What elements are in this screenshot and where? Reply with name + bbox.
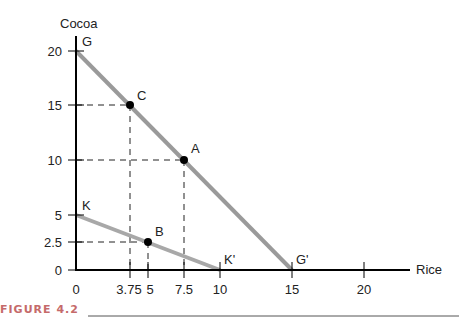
svg-text:5: 5 <box>146 282 153 297</box>
svg-text:20: 20 <box>48 44 62 59</box>
dashed-guides <box>76 105 184 270</box>
label-k-prime: K' <box>224 252 235 267</box>
point-a <box>180 156 188 164</box>
svg-text:0: 0 <box>72 282 79 297</box>
y-axis-label: Cocoa <box>60 16 98 31</box>
svg-text:7.5: 7.5 <box>175 282 193 297</box>
label-b: B <box>155 224 164 239</box>
svg-text:2.5: 2.5 <box>44 235 62 250</box>
svg-text:10: 10 <box>213 282 227 297</box>
production-possibility-chart: Cocoa Rice 20 15 10 5 2.5 0 0 3.75 5 7.5… <box>0 0 459 320</box>
x-axis-label: Rice <box>416 262 442 277</box>
point-c <box>126 101 134 109</box>
svg-text:10: 10 <box>48 153 62 168</box>
label-k: K <box>82 198 91 213</box>
point-b <box>144 238 152 246</box>
svg-text:15: 15 <box>48 98 62 113</box>
label-c: C <box>137 88 146 103</box>
svg-text:20: 20 <box>357 282 371 297</box>
svg-text:15: 15 <box>285 282 299 297</box>
figure-label: FIGURE 4.2 <box>0 303 79 316</box>
label-g: G <box>82 34 92 49</box>
x-tick-labels: 0 3.75 5 7.5 10 15 20 <box>72 282 371 297</box>
svg-text:5: 5 <box>55 208 62 223</box>
svg-text:3.75: 3.75 <box>116 282 141 297</box>
svg-text:0: 0 <box>55 263 62 278</box>
label-a: A <box>191 141 200 156</box>
label-g-prime: G' <box>296 252 309 267</box>
y-tick-labels: 20 15 10 5 2.5 0 <box>44 44 62 278</box>
